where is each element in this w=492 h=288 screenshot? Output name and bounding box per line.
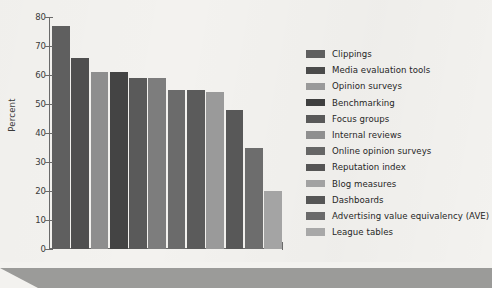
legend-item[interactable]: Dashboards: [306, 192, 490, 208]
legend-item-label: Online opinion surveys: [332, 146, 431, 156]
bar-series: [52, 17, 282, 249]
bar: [264, 191, 282, 249]
bar: [71, 58, 89, 249]
legend-color-swatch: [306, 115, 325, 123]
y-axis-tick-label: 10: [24, 216, 46, 224]
bar: [110, 72, 128, 249]
y-axis-title: Percent: [7, 85, 17, 145]
legend-item[interactable]: Online opinion surveys: [306, 143, 490, 159]
legend-item-label: Media evaluation tools: [332, 65, 430, 75]
legend-item-label: Advertising value equivalency (AVE): [332, 211, 489, 221]
y-axis-tick-label: 0: [24, 245, 46, 253]
legend-item[interactable]: Reputation index: [306, 159, 490, 175]
y-axis-tick-label: 50: [24, 100, 46, 108]
y-axis-tick-label: 40: [24, 129, 46, 137]
legend-color-swatch: [306, 228, 325, 236]
legend-color-swatch: [306, 164, 325, 172]
legend-color-swatch: [306, 147, 325, 155]
legend-item-label: League tables: [332, 227, 393, 237]
legend-color-swatch: [306, 99, 325, 107]
bar: [187, 90, 205, 250]
legend-item-label: Benchmarking: [332, 98, 395, 108]
legend-item[interactable]: Benchmarking: [306, 95, 490, 111]
legend-item[interactable]: Media evaluation tools: [306, 62, 490, 78]
bar: [91, 72, 109, 249]
legend-color-swatch: [306, 50, 325, 58]
legend-color-swatch: [306, 196, 325, 204]
legend-item[interactable]: Focus groups: [306, 111, 490, 127]
legend-item-label: Focus groups: [332, 114, 389, 124]
y-axis-tick-label: 20: [24, 187, 46, 195]
footer-corner-notch: [0, 268, 38, 288]
y-axis-tick-label: 80: [24, 13, 46, 21]
chart-legend: ClippingsMedia evaluation toolsOpinion s…: [306, 46, 490, 240]
legend-color-swatch: [306, 67, 325, 75]
legend-item[interactable]: Blog measures: [306, 176, 490, 192]
legend-color-swatch: [306, 212, 325, 220]
bar: [168, 90, 186, 250]
y-axis-tick-mark: [45, 75, 53, 76]
bar: [206, 92, 224, 249]
plot-area: Percent 80706050403020100: [0, 0, 300, 262]
y-axis-tick-label: 60: [24, 71, 46, 79]
y-axis-tick-label: 30: [24, 158, 46, 166]
y-axis-tick-mark: [45, 17, 53, 18]
footer-band: [0, 268, 492, 288]
y-axis-tick-labels: 80706050403020100: [20, 0, 46, 262]
legend-item[interactable]: Opinion surveys: [306, 78, 490, 94]
legend-item-label: Blog measures: [332, 179, 396, 189]
y-axis-tick-label: 70: [24, 42, 46, 50]
legend-item-label: Reputation index: [332, 162, 406, 172]
legend-item[interactable]: Internal reviews: [306, 127, 490, 143]
y-axis-tick-mark: [45, 191, 53, 192]
legend-item-label: Clippings: [332, 49, 372, 59]
legend-item[interactable]: Advertising value equivalency (AVE): [306, 208, 490, 224]
chart-page: Percent 80706050403020100 ClippingsMedia…: [0, 0, 492, 288]
y-axis-tick-mark: [45, 220, 53, 221]
legend-item[interactable]: League tables: [306, 224, 490, 240]
legend-item-label: Opinion surveys: [332, 81, 402, 91]
y-axis-tick-mark: [45, 162, 53, 163]
y-axis-tick-mark: [45, 46, 53, 47]
y-axis-tick-mark: [45, 104, 53, 105]
legend-color-swatch: [306, 131, 325, 139]
bar: [129, 78, 147, 249]
legend-color-swatch: [306, 180, 325, 188]
bar: [148, 78, 166, 249]
bar: [52, 26, 70, 249]
x-axis-end-tick: [282, 242, 283, 250]
bar: [226, 110, 244, 249]
y-axis-tick-mark: [45, 133, 53, 134]
legend-item-label: Dashboards: [332, 195, 384, 205]
bar: [245, 148, 263, 250]
y-axis-tick-mark: [45, 249, 53, 250]
legend-item[interactable]: Clippings: [306, 46, 490, 62]
legend-color-swatch: [306, 83, 325, 91]
legend-item-label: Internal reviews: [332, 130, 402, 140]
